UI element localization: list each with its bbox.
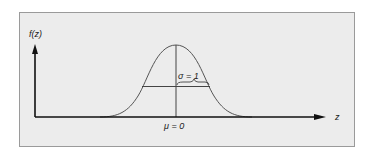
sigma-label: σ = 1 — [178, 71, 199, 81]
y-axis-label: f(z) — [29, 29, 42, 39]
mean-label: μ = 0 — [163, 121, 184, 131]
x-axis-label: z — [334, 112, 340, 122]
normal-distribution-figure: f(z) z σ = 1 μ = 0 — [0, 0, 371, 156]
